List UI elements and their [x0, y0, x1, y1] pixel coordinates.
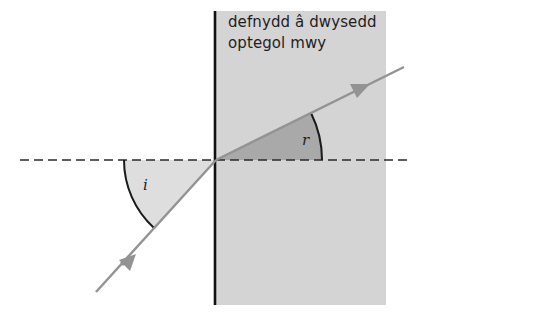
- medium-label-line-2: optegol mwy: [228, 33, 377, 54]
- refraction-angle-label: r: [302, 131, 309, 149]
- incidence-angle-label: i: [143, 176, 148, 194]
- medium-label-line-1: defnydd â dwysedd: [228, 12, 377, 33]
- medium-label: defnydd â dwysedd optegol mwy: [228, 12, 377, 54]
- refraction-diagram: defnydd â dwysedd optegol mwy i r: [0, 0, 540, 319]
- incidence-angle-wedge: [124, 160, 216, 228]
